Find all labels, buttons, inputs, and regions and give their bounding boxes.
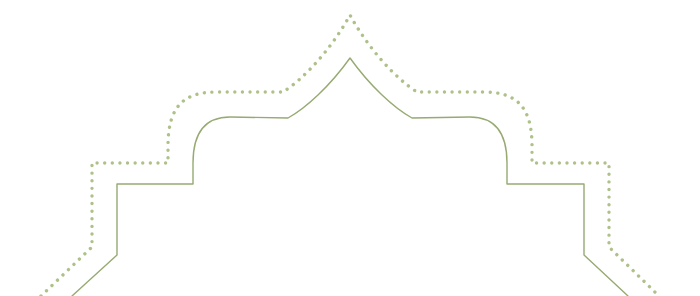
ornament-background — [0, 0, 700, 296]
ornament-canvas: Decorative Arch Ornament — [0, 0, 700, 296]
arch-ornament-graphic — [0, 0, 700, 296]
